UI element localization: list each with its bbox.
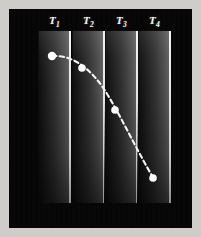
plate-label-t1-text: T [49, 14, 56, 26]
plate-label-t3: T3 [116, 14, 127, 29]
plate-label-t4-sub: 4 [156, 20, 160, 29]
plate-label-t2-text: T [83, 14, 90, 26]
plate-label-t1-sub: 1 [56, 20, 60, 29]
plate-label-t3-text: T [116, 14, 123, 26]
plate-t4 [137, 31, 171, 203]
plate-label-t4-text: T [149, 14, 156, 26]
scene-canvas: T1 T2 T3 T4 [9, 9, 192, 228]
plate-face [137, 31, 171, 203]
plate-label-t3-sub: 3 [123, 20, 127, 29]
plate-face [104, 31, 138, 203]
plate-bright-edge [169, 31, 171, 203]
plate-label-t1: T1 [49, 14, 60, 29]
plate-label-t4: T4 [149, 14, 160, 29]
plate-t2 [71, 31, 105, 203]
plate-t1 [37, 31, 71, 203]
plate-t3 [104, 31, 138, 203]
plate-face [37, 31, 71, 203]
plate-label-t2: T2 [83, 14, 94, 29]
figure-root: T1 T2 T3 T4 [0, 0, 201, 237]
plate-label-t2-sub: 2 [90, 20, 94, 29]
plate-face [71, 31, 105, 203]
